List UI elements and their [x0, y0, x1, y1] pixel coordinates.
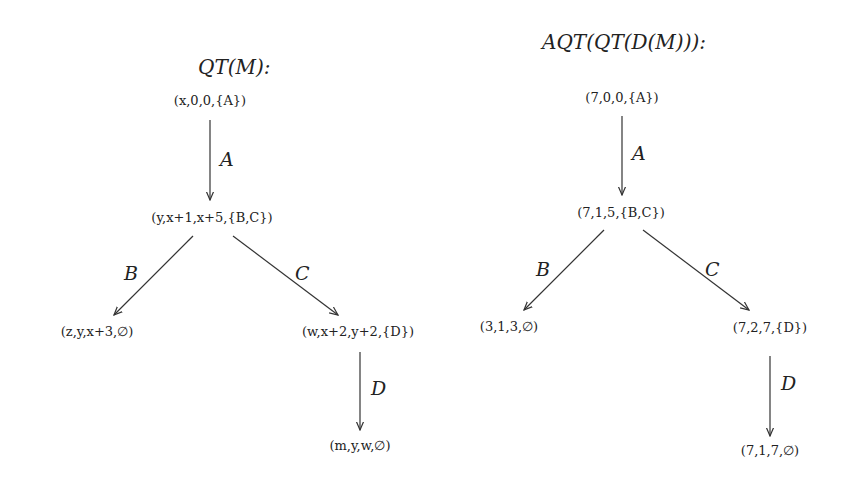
right-node-root: (7,0,0,{A})	[585, 90, 658, 105]
left-edge-label-b: B	[124, 262, 138, 284]
right-tree-title: AQT(QT(D(M))):	[542, 30, 706, 54]
right-edge-label-d: D	[781, 372, 796, 394]
right-edge-label-b: B	[536, 258, 550, 280]
right-edge-c	[643, 230, 749, 310]
right-node-right: (7,2,7,{D})	[733, 320, 807, 335]
right-node-mid: (7,1,5,{B,C})	[577, 205, 665, 220]
right-node-leaf: (7,1,7,∅)	[741, 443, 799, 458]
right-edge-label-a: A	[632, 142, 646, 164]
left-edge-label-c: C	[295, 262, 310, 284]
left-edge-label-d: D	[371, 377, 386, 399]
right-node-left: (3,1,3,∅)	[480, 319, 538, 334]
left-edge-label-a: A	[220, 148, 234, 170]
left-node-right: (w,x+2,y+2,{D})	[302, 324, 414, 339]
tree-edges	[0, 0, 859, 485]
left-node-left: (z,y,x+3,∅)	[61, 324, 134, 339]
left-edge-c	[233, 236, 338, 315]
left-node-leaf: (m,y,w,∅)	[329, 438, 390, 453]
right-edge-label-c: C	[705, 258, 720, 280]
left-tree-title: QT(M):	[198, 55, 271, 79]
left-node-root: (x,0,0,{A})	[174, 93, 246, 108]
left-node-mid: (y,x+1,x+5,{B,C})	[151, 210, 272, 225]
